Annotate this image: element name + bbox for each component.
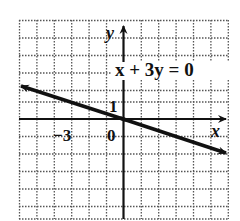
tick-label-neg3: −3 (53, 126, 71, 145)
y-axis-label: y (104, 23, 115, 43)
graph: x + 3y = 0 y x 1 0 −3 (0, 0, 240, 221)
tick-label-0: 0 (107, 126, 116, 145)
tick-label-1: 1 (109, 97, 118, 116)
equation-label: x + 3y = 0 (115, 59, 194, 80)
x-axis-label: x (210, 121, 220, 141)
